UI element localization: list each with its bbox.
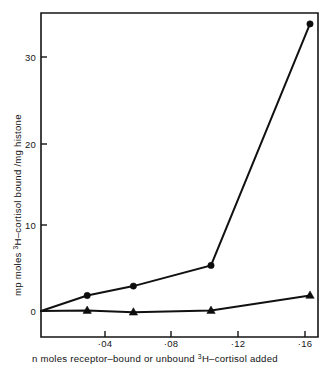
x-tick-label-012: ·12 xyxy=(231,338,245,349)
y-axis-tick-labels: 0 10 20 30 xyxy=(25,52,36,317)
y-tick-label-30: 30 xyxy=(25,52,36,63)
data-point-circle xyxy=(307,21,313,27)
x-tick-label-004: ·04 xyxy=(98,338,112,349)
x-axis-title: n moles receptor–bound or unbound 3H–cor… xyxy=(32,353,278,365)
y-axis-title: mp moles 3H–cortisol bound /mg histone xyxy=(12,114,24,296)
y-tick-label-10: 10 xyxy=(25,220,36,231)
x-axis-ticks xyxy=(105,331,305,337)
series-receptor-bound xyxy=(41,21,313,311)
data-point-circle xyxy=(208,262,214,268)
series-unbound xyxy=(41,291,314,315)
x-tick-label-008: ·08 xyxy=(164,338,178,349)
x-tick-label-016: ·16 xyxy=(298,338,312,349)
x-axis-title-pre: n moles receptor–bound or unbound xyxy=(32,353,198,364)
series-receptor-bound-line xyxy=(41,24,310,311)
y-axis-title-pre: mp moles xyxy=(12,250,23,297)
data-point-triangle xyxy=(306,291,314,298)
y-axis-ticks xyxy=(41,57,47,311)
y-tick-label-0: 0 xyxy=(31,306,36,317)
chart-canvas: 0 10 20 30 ·04 ·08 ·12 ·16 n moles recep… xyxy=(0,0,335,370)
x-axis-title-post: H–cortisol added xyxy=(202,353,278,364)
axis-frame xyxy=(41,13,318,337)
data-point-circle xyxy=(130,283,136,289)
y-tick-label-20: 20 xyxy=(25,139,36,150)
y-axis-title-post: H–cortisol bound /mg histone xyxy=(12,114,23,245)
data-point-circle xyxy=(84,292,90,298)
figure-container: 0 10 20 30 ·04 ·08 ·12 ·16 n moles recep… xyxy=(0,0,335,370)
x-axis-tick-labels: ·04 ·08 ·12 ·16 xyxy=(98,338,312,349)
